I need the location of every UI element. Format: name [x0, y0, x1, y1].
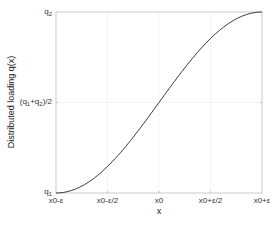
- y-tick-label-q2: q2: [44, 7, 52, 17]
- y-tick-label-mid: (q1+q2)/2: [20, 97, 53, 107]
- x-axis-label: x: [157, 206, 162, 216]
- x-tick-label: x0+ε: [254, 196, 271, 205]
- x-tick-label: x0-ε/2: [97, 196, 119, 205]
- y-tick-label-q1: q1: [44, 187, 52, 197]
- chart: x0-ε x0-ε/2 x0 x0+ε/2 x0+ε x q1 (q1+q2)/…: [0, 0, 280, 226]
- x-tick-label: x0-ε: [49, 196, 64, 205]
- y-axis-label: Distributed loading q(x): [6, 56, 16, 149]
- x-tick-label: x0+ε/2: [199, 196, 223, 205]
- x-tick-label: x0: [155, 196, 164, 205]
